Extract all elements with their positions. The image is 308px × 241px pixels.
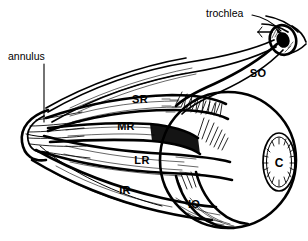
label-cornea: C <box>275 156 284 170</box>
label-lateral-rectus: LR <box>134 154 149 166</box>
label-medial-rectus: MR <box>117 120 135 132</box>
extraocular-muscle-drawing: annulus trochlea SR MR LR IR IO SO C <box>0 0 308 241</box>
label-superior-rectus: SR <box>132 93 148 105</box>
anatomical-figure: annulus trochlea SR MR LR IR IO SO C <box>0 0 308 241</box>
label-superior-oblique: SO <box>250 67 267 79</box>
label-trochlea: trochlea <box>206 7 244 19</box>
label-inferior-rectus: IR <box>119 184 131 196</box>
label-annulus: annulus <box>8 50 45 62</box>
label-inferior-oblique: IO <box>188 198 200 210</box>
